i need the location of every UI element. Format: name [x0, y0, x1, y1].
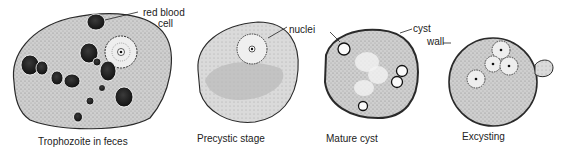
nuclei-label: nuclei [289, 24, 315, 35]
diagram-canvas [0, 0, 565, 151]
precystic-drawing [198, 22, 298, 122]
caption-precystic: Precystic stage [197, 133, 265, 144]
nucleus-icon [237, 34, 267, 64]
mature-cyst-drawing [325, 29, 418, 118]
caption-excysting: Excysting [462, 131, 505, 142]
red-blood-cell-label: red blood [143, 7, 185, 18]
cyst-wall-label: cyst [413, 23, 431, 34]
caption-trophozoite: Trophozoite in feces [38, 136, 128, 147]
trophozoite-drawing [13, 12, 171, 129]
caption-mature-cyst: Mature cyst [326, 133, 378, 144]
red-blood-cell-label-line2: cell [158, 18, 173, 29]
cyst-wall-label-line2: wall [427, 36, 444, 47]
excysting-drawing [443, 38, 553, 126]
